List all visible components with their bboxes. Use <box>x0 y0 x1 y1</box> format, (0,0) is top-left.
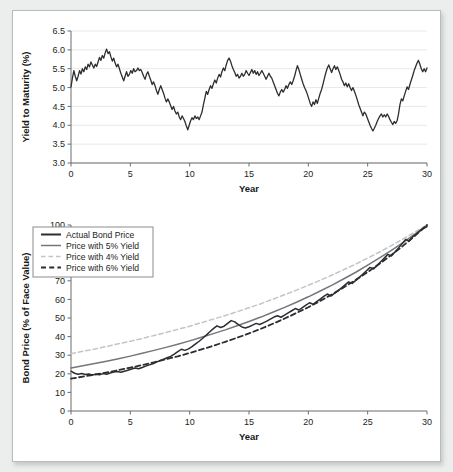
x-tick-label: 0 <box>68 417 73 427</box>
figure-card: 3.03.54.04.55.05.56.06.5051015202530Year… <box>12 10 441 462</box>
y-tick-label: 30 <box>55 350 65 360</box>
y-tick-label: 40 <box>55 332 65 342</box>
y-tick-label: 4.0 <box>52 120 65 130</box>
y-tick-label: 70 <box>55 276 65 286</box>
x-tick-label: 20 <box>303 417 313 427</box>
y-tick-label: 60 <box>55 295 65 305</box>
y-tick-label: 4.5 <box>52 102 65 112</box>
y-tick-label: 10 <box>55 388 65 398</box>
x-tick-label: 15 <box>244 417 254 427</box>
legend-label-1: Actual Bond Price <box>66 230 135 240</box>
x-tick-label: 0 <box>68 169 73 179</box>
yield-to-maturity-chart: 3.03.54.04.55.05.56.06.5051015202530Year… <box>13 17 442 222</box>
x-tick-label: 25 <box>363 169 373 179</box>
x-tick-label: 10 <box>185 417 195 427</box>
y-tick-label: 50 <box>55 313 65 323</box>
legend-label-4: Price with 6% Yield <box>66 263 139 273</box>
x-tick-label: 5 <box>128 169 133 179</box>
x-tick-label: 20 <box>303 169 313 179</box>
y-tick-label: 0 <box>60 406 65 416</box>
series-line-yield-to-maturity <box>71 49 427 131</box>
x-tick-label: 30 <box>422 169 432 179</box>
yield-to-maturity-chart-panel: 3.03.54.04.55.05.56.06.5051015202530Year… <box>13 17 442 222</box>
x-axis-title: Year <box>239 431 259 442</box>
bond-price-chart: 0102030405060708090100051015202530YearBo… <box>13 211 442 461</box>
legend-label-2: Price with 5% Yield <box>66 241 139 251</box>
x-axis-title: Year <box>239 183 259 194</box>
y-axis-title: Bond Price (% of Face Value) <box>20 253 31 384</box>
x-tick-label: 30 <box>422 417 432 427</box>
y-tick-label: 3.0 <box>52 158 65 168</box>
x-tick-label: 25 <box>363 417 373 427</box>
axis-spines <box>71 31 427 163</box>
legend-label-3: Price with 4% Yield <box>66 252 139 262</box>
y-tick-label: 5.0 <box>52 83 65 93</box>
x-tick-label: 5 <box>128 417 133 427</box>
x-tick-label: 10 <box>185 169 195 179</box>
y-axis-title: Yield to Maturity (%) <box>20 52 31 143</box>
x-tick-label: 15 <box>244 169 254 179</box>
y-tick-label: 3.5 <box>52 139 65 149</box>
y-tick-label: 20 <box>55 369 65 379</box>
bond-price-chart-panel: 0102030405060708090100051015202530YearBo… <box>13 211 442 461</box>
y-tick-label: 6.5 <box>52 26 65 36</box>
y-tick-label: 6.0 <box>52 45 65 55</box>
y-tick-label: 5.5 <box>52 64 65 74</box>
